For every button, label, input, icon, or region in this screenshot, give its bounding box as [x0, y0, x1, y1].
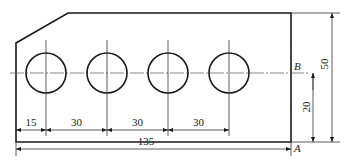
chain-dim-label-1: 15 [26, 116, 38, 128]
vertical-dimension-50: 50 [318, 13, 332, 142]
vertical-dimension-20: 20 [300, 73, 313, 142]
chain-dim-label-2: 30 [71, 116, 83, 128]
chain-dim-label-3: 30 [132, 116, 144, 128]
plate-outline [16, 13, 291, 142]
dim-50-label: 50 [318, 58, 330, 70]
chain-dim-label-4: 30 [193, 116, 205, 128]
datum-label-A: A [293, 142, 301, 154]
drawing-svg: 15303030 135 20 50 B A [0, 0, 349, 166]
technical-drawing: 15303030 135 20 50 B A [0, 0, 349, 166]
datum-label-B: B [294, 60, 301, 72]
chain-dimensions: 15303030 [16, 116, 229, 130]
dim-20-label: 20 [300, 101, 312, 113]
overall-dim-label: 135 [138, 135, 155, 147]
